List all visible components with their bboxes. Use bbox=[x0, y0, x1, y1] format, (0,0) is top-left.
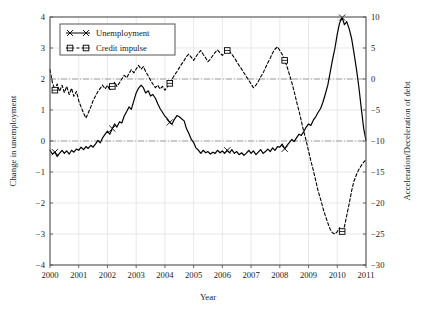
y2-tick-label: −15 bbox=[371, 167, 384, 177]
marker-x bbox=[52, 149, 58, 155]
marker-x bbox=[109, 126, 115, 132]
x-tick-label: 2006 bbox=[214, 270, 232, 280]
y-tick-label: 4 bbox=[41, 12, 46, 22]
y2-tick-label: −20 bbox=[371, 198, 384, 208]
y-tick-label: −4 bbox=[36, 260, 46, 270]
x-tick-label: 2009 bbox=[300, 270, 317, 280]
y-axis-title: Change in unemployment bbox=[8, 95, 18, 186]
y-tick-label: 1 bbox=[41, 105, 45, 115]
chart-figure: 2000200120022003200420052006200720082009… bbox=[0, 0, 422, 313]
y2-tick-label: −30 bbox=[371, 260, 384, 270]
y2-tick-label: 0 bbox=[371, 74, 375, 84]
x-tick-label: 2007 bbox=[242, 270, 260, 280]
y2-tick-label: 5 bbox=[371, 43, 375, 53]
x-tick-label: 2003 bbox=[128, 270, 145, 280]
x-axis-title: Year bbox=[200, 292, 216, 302]
y-tick-label: 0 bbox=[41, 136, 45, 146]
y-tick-label: −3 bbox=[36, 229, 45, 239]
x-tick-label: 2010 bbox=[329, 270, 346, 280]
y-tick-label: −1 bbox=[36, 167, 45, 177]
y2-tick-label: 10 bbox=[371, 12, 380, 22]
y-tick-label: 3 bbox=[41, 43, 45, 53]
marker-x bbox=[167, 119, 173, 125]
legend-label-unemployment: Unemployment bbox=[96, 28, 150, 38]
x-tick-label: 2002 bbox=[99, 270, 116, 280]
y-tick-label: 2 bbox=[41, 74, 45, 84]
y2-tick-label: −25 bbox=[371, 229, 384, 239]
marker-x bbox=[282, 146, 288, 152]
x-tick-label: 2001 bbox=[70, 270, 87, 280]
x-tick-label: 2005 bbox=[185, 270, 202, 280]
y-tick-label: −2 bbox=[36, 198, 45, 208]
marker-x bbox=[224, 147, 230, 153]
legend: UnemploymentCredit impulse bbox=[60, 24, 175, 55]
dual-axis-line-chart: 2000200120022003200420052006200720082009… bbox=[0, 0, 422, 313]
x-tick-label: 2000 bbox=[41, 270, 58, 280]
x-tick-label: 2011 bbox=[358, 270, 375, 280]
y2-tick-label: −10 bbox=[371, 136, 384, 146]
marker-x bbox=[339, 15, 345, 21]
x-tick-label: 2004 bbox=[156, 270, 174, 280]
y2-axis-title: Acceleration/Deceleration of debt bbox=[402, 81, 412, 201]
legend-label-credit-impulse: Credit impulse bbox=[96, 43, 147, 53]
x-tick-label: 2008 bbox=[271, 270, 288, 280]
y2-tick-label: −5 bbox=[371, 105, 380, 115]
